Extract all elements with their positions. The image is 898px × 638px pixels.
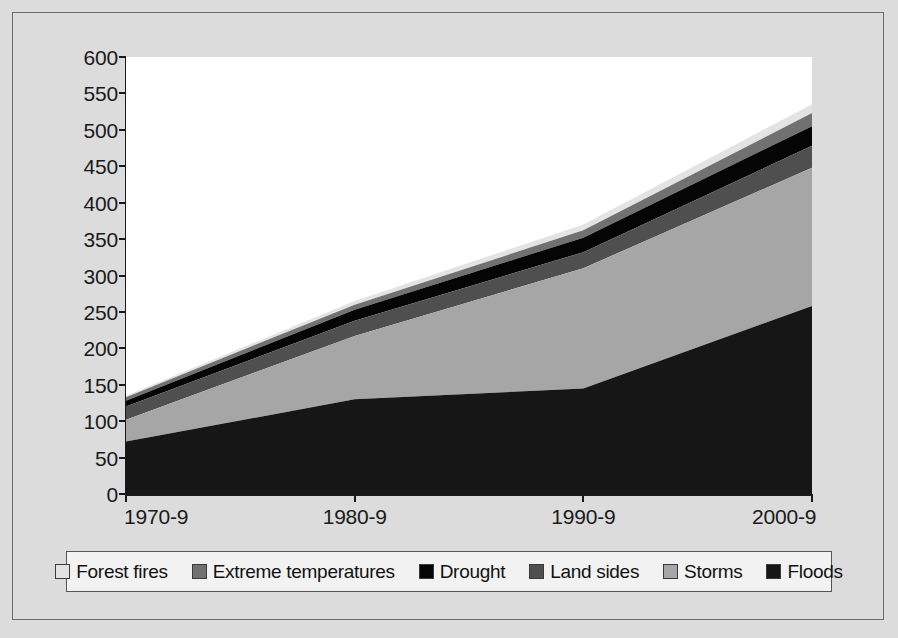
x-tick-mark [582, 496, 584, 502]
x-tick-mark [125, 496, 127, 502]
legend-item-forest-fires[interactable]: Forest fires [55, 562, 167, 581]
legend-swatch-icon [766, 564, 781, 579]
legend-item-storms[interactable]: Storms [663, 562, 742, 581]
x-tick-mark [354, 496, 356, 502]
x-tick-label: 2000-9 [752, 506, 816, 527]
x-axis-line [125, 494, 813, 496]
plot-area [126, 57, 812, 494]
legend-swatch-icon [529, 564, 544, 579]
legend-item-extreme-temperatures[interactable]: Extreme temperatures [192, 562, 395, 581]
legend-label: Drought [440, 562, 506, 581]
x-tick-label: 1970-9 [124, 506, 188, 527]
legend-swatch-icon [55, 564, 70, 579]
legend-label: Forest fires [76, 562, 167, 581]
legend-item-floods[interactable]: Floods [766, 562, 842, 581]
stacked-area-plot [126, 57, 812, 494]
chart-figure: 050100150200250300350400450500550600 197… [0, 0, 898, 638]
legend-label: Extreme temperatures [213, 562, 395, 581]
legend-label: Land sides [550, 562, 639, 581]
chart-legend: Forest firesExtreme temperaturesDroughtL… [66, 551, 832, 592]
legend-item-drought[interactable]: Drought [419, 562, 506, 581]
legend-label: Storms [684, 562, 742, 581]
legend-swatch-icon [192, 564, 207, 579]
legend-swatch-icon [419, 564, 434, 579]
x-tick-label: 1990-9 [551, 506, 615, 527]
legend-item-land-sides[interactable]: Land sides [529, 562, 639, 581]
legend-swatch-icon [663, 564, 678, 579]
x-tick-label: 1980-9 [323, 506, 387, 527]
x-tick-mark [811, 496, 813, 502]
legend-label: Floods [787, 562, 842, 581]
